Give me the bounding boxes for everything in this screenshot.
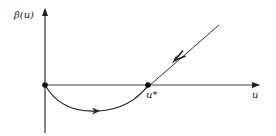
lower-trajectory-curve bbox=[45, 85, 148, 111]
fixed-point-label: u* bbox=[146, 89, 157, 100]
beta-function-diagram: β(u) u* u bbox=[0, 0, 276, 136]
x-axis-label: u bbox=[252, 89, 258, 100]
upper-trajectory-line bbox=[134, 25, 219, 99]
u-star-fixed-point-dot bbox=[145, 82, 151, 88]
origin-fixed-point-dot bbox=[42, 82, 48, 88]
y-axis-label: β(u) bbox=[13, 9, 34, 20]
